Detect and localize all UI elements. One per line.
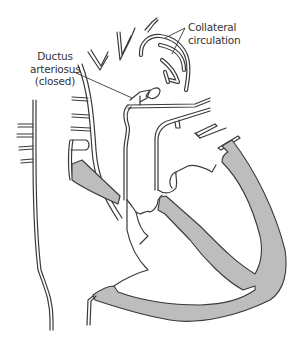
ductus-label-line3: (closed) — [30, 75, 80, 88]
ventricle-wall — [93, 140, 286, 321]
ductus-label-line2: arteriosus — [30, 63, 80, 76]
vessel-wedge — [72, 160, 120, 204]
aorta-trunk — [124, 105, 131, 200]
aortic-arch — [141, 36, 188, 90]
head-vessels — [88, 18, 158, 70]
ductus-region — [128, 88, 210, 108]
collateral-label-line2: circulation — [188, 34, 240, 47]
ductus-label-line1: Ductus — [30, 50, 80, 63]
ductus-arteriosus-label: Ductus arteriosus (closed) — [30, 50, 80, 88]
collateral-circulation-label: Collateral circulation — [188, 21, 240, 46]
collateral-label-line1: Collateral — [188, 21, 240, 34]
vena-cava-left — [17, 100, 53, 330]
ductus-leader-line — [74, 72, 132, 98]
